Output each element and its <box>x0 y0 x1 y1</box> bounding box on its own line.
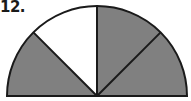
semicircle-figure <box>0 0 191 101</box>
